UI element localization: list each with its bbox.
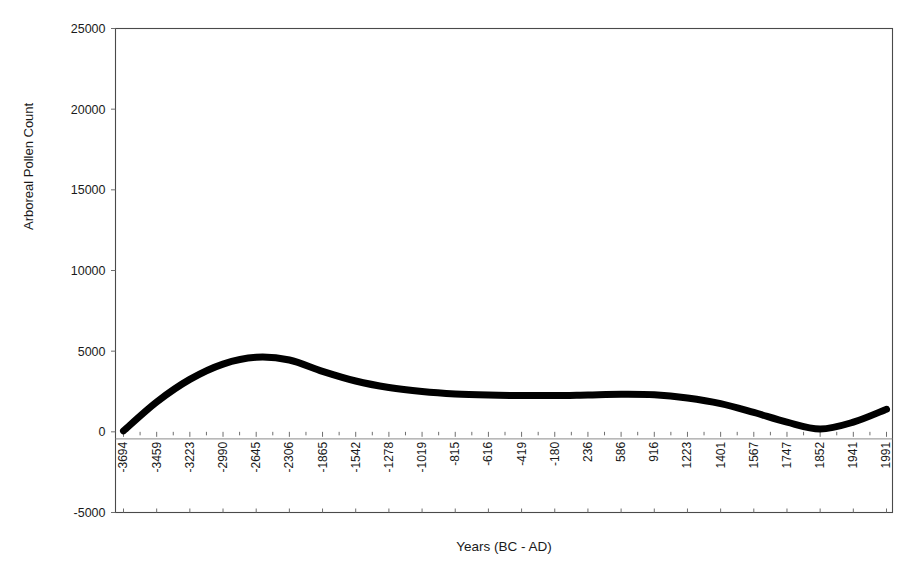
- x-tick-label: 1223: [680, 442, 694, 469]
- x-tick-label: 1401: [714, 442, 728, 469]
- x-tick-label: -2306: [282, 442, 296, 473]
- y-tick-label: -5000: [74, 506, 106, 520]
- chart-container: 2500020000150001000050000-5000 -3694-345…: [0, 0, 911, 580]
- x-tick-label: 1991: [880, 442, 894, 469]
- x-tick-label: -1542: [349, 442, 363, 473]
- x-tick-label: -2990: [216, 442, 230, 473]
- x-tick-label: -3223: [183, 442, 197, 473]
- y-tick-label: 15000: [71, 183, 106, 197]
- x-tick-label: -3694: [117, 442, 131, 473]
- x-tick-label: 916: [647, 442, 661, 462]
- x-tick-label: 1747: [780, 442, 794, 469]
- x-tick-label: -1865: [316, 442, 330, 473]
- x-tick-label: -2645: [249, 442, 263, 473]
- x-tick-label: -616: [481, 442, 495, 466]
- x-tick-label: 1941: [846, 442, 860, 469]
- x-tick-label: 236: [581, 442, 595, 462]
- x-axis-title: Years (BC - AD): [456, 539, 552, 554]
- x-tick-label: -419: [515, 442, 529, 466]
- y-tick-label: 10000: [71, 264, 106, 278]
- y-tick-label: 20000: [71, 103, 106, 117]
- x-tick-label: -1019: [415, 442, 429, 473]
- y-tick-label: 5000: [78, 345, 106, 359]
- y-tick-label: 0: [99, 425, 106, 439]
- x-tick-label: -815: [448, 442, 462, 466]
- y-axis-title: Arboreal Pollen Count: [21, 102, 36, 230]
- x-tick-label: 1567: [747, 442, 761, 469]
- x-tick-label: 1852: [813, 442, 827, 469]
- x-tick-label: -3459: [150, 442, 164, 473]
- pollen-count-line-chart: 2500020000150001000050000-5000 -3694-345…: [0, 0, 911, 580]
- chart-background: [0, 0, 911, 580]
- y-tick-label: 25000: [71, 22, 106, 36]
- x-tick-label: -180: [548, 442, 562, 466]
- x-tick-label: -1278: [382, 442, 396, 473]
- x-tick-label: 586: [614, 442, 628, 462]
